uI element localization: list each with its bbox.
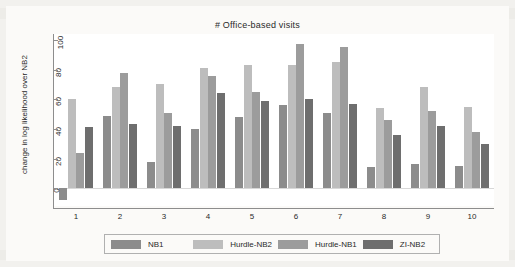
legend-swatch-hurdle-nb2 — [193, 240, 223, 249]
bar — [288, 65, 296, 188]
bar — [332, 62, 340, 188]
bar — [147, 162, 155, 189]
bar — [244, 65, 252, 188]
x-tick-label: 6 — [294, 212, 298, 221]
y-tick-mark — [54, 159, 58, 160]
bar — [235, 117, 243, 188]
bar — [120, 73, 128, 189]
bar — [481, 144, 489, 188]
zero-baseline — [54, 188, 494, 189]
bar — [208, 76, 216, 189]
x-tick-label: 1 — [74, 212, 78, 221]
bar — [103, 116, 111, 189]
legend-label-hurdle-nb1: Hurdle-NB1 — [315, 240, 357, 249]
legend-label-nb1: NB1 — [148, 240, 164, 249]
y-axis-label: change in log likelihood over NB2 — [20, 35, 29, 195]
legend-item-zi-nb2: ZI-NB2 — [357, 240, 439, 249]
bar — [252, 92, 260, 188]
legend-item-nb1: NB1 — [105, 240, 187, 249]
y-tick-label: 100 — [56, 36, 65, 49]
bar — [164, 113, 172, 189]
bar — [455, 166, 463, 188]
y-tick-mark — [54, 40, 58, 41]
bar — [376, 108, 384, 188]
bar — [323, 113, 331, 189]
bar — [191, 129, 199, 188]
bar — [200, 68, 208, 188]
legend-item-hurdle-nb2: Hurdle-NB2 — [187, 240, 272, 249]
chart-card: # Office-based visits change in log like… — [6, 6, 509, 261]
x-tick-label: 4 — [206, 212, 210, 221]
x-tick-label: 3 — [162, 212, 166, 221]
legend-swatch-hurdle-nb1 — [278, 240, 308, 249]
bar — [129, 124, 137, 188]
bar — [305, 99, 313, 188]
bar — [68, 99, 76, 188]
bar — [85, 127, 93, 188]
x-axis-line — [53, 208, 494, 209]
bar — [428, 111, 436, 188]
bar — [384, 120, 392, 188]
bar — [420, 87, 428, 188]
y-tick-mark — [54, 70, 58, 71]
bar — [349, 104, 357, 189]
bar — [411, 164, 419, 188]
chart-title: # Office-based visits — [6, 20, 509, 30]
bar — [112, 87, 120, 188]
bar — [156, 84, 164, 188]
bar — [296, 44, 304, 188]
legend-label-hurdle-nb2: Hurdle-NB2 — [230, 240, 272, 249]
x-tick-label: 8 — [382, 212, 386, 221]
bar — [393, 135, 401, 188]
plot-area — [54, 34, 494, 206]
y-tick-mark — [54, 99, 58, 100]
bar — [340, 47, 348, 188]
x-tick-label: 2 — [118, 212, 122, 221]
bar — [279, 105, 287, 188]
y-tick-mark — [54, 129, 58, 130]
bar — [173, 126, 181, 188]
legend-label-zi-nb2: ZI-NB2 — [400, 240, 425, 249]
bar — [367, 167, 375, 188]
x-tick-label: 5 — [250, 212, 254, 221]
chart-legend: NB1 Hurdle-NB2 Hurdle-NB1 ZI-NB2 — [104, 234, 440, 254]
legend-swatch-nb1 — [111, 240, 141, 249]
bar — [217, 93, 225, 188]
bar — [464, 107, 472, 189]
legend-swatch-zi-nb2 — [363, 240, 393, 249]
x-tick-label: 10 — [468, 212, 477, 221]
y-tick-mark — [54, 188, 58, 189]
legend-item-hurdle-nb1: Hurdle-NB1 — [272, 240, 357, 249]
bar — [472, 132, 480, 188]
bar — [437, 126, 445, 188]
x-tick-label: 7 — [338, 212, 342, 221]
bar — [76, 153, 84, 189]
bar — [261, 101, 269, 188]
x-tick-label: 9 — [426, 212, 430, 221]
figure-canvas: # Office-based visits change in log like… — [0, 0, 515, 267]
